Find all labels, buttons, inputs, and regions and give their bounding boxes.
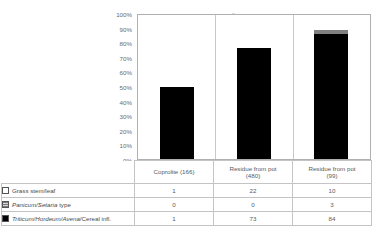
column-separator: [215, 15, 216, 159]
category-header-cell: Coprolite (166): [135, 161, 214, 184]
legend-label-part: Panicum/Setaria: [12, 201, 57, 208]
bar-segment: [160, 15, 194, 87]
y-axis-tick-label: 40%: [120, 98, 132, 105]
legend-swatch-icon: [2, 201, 9, 208]
legend-entry: Triticum/Hordeum/Avena/Cereal infl.: [2, 212, 135, 226]
bar-segment: [160, 87, 194, 159]
category-header-line: (99): [326, 172, 337, 179]
table-cell-value: 84: [293, 212, 372, 226]
table-row: Panicum/Setaria type003: [2, 198, 372, 212]
y-axis-tick-label: 10%: [120, 142, 132, 149]
chart-figure: 0%10%20%30%40%50%60%70%80%90%100% Coprol…: [0, 0, 380, 236]
table-corner-cell: [2, 161, 135, 184]
bar-column: [314, 15, 348, 159]
y-axis-tick-label: 80%: [120, 40, 132, 47]
bar-segment: [237, 15, 271, 48]
table-cell-value: 1: [135, 184, 214, 198]
legend-label-part: /Cereal infl.: [80, 215, 111, 222]
y-axis-tick-label: 60%: [120, 69, 132, 76]
category-header-line: Residue from pot: [229, 165, 276, 172]
table-header-row: Coprolite (166)Residue from pot(480)Resi…: [2, 161, 372, 184]
plot-frame: [137, 14, 371, 160]
table-cell-value: 0: [214, 198, 293, 212]
legend-entry: Grass stem/leaf: [2, 184, 135, 198]
y-axis-labels: 0%10%20%30%40%50%60%70%80%90%100%: [96, 8, 136, 162]
bar-column: [160, 15, 194, 159]
legend-label-part: type: [57, 201, 70, 208]
table-cell-value: 0: [135, 198, 214, 212]
bars-container: [138, 15, 370, 159]
legend-swatch-icon: [2, 187, 9, 194]
bar-segment: [314, 15, 348, 30]
legend-entry: Panicum/Setaria type: [2, 198, 135, 212]
y-axis-tick-label: 50%: [120, 84, 132, 91]
table-cell-value: 1: [135, 212, 214, 226]
legend-label-part: Grass stem/leaf: [12, 187, 55, 194]
table-row: Triticum/Hordeum/Avena/Cereal infl.17384: [2, 212, 372, 226]
y-axis-tick-label: 30%: [120, 113, 132, 120]
legend-swatch-icon: [2, 215, 9, 222]
category-header-line: Residue from pot: [308, 165, 355, 172]
table-cell-value: 73: [214, 212, 293, 226]
category-header-line: Coprolite (166): [154, 168, 195, 175]
bar-segment: [237, 48, 271, 159]
category-header-cell: Residue from pot(480): [214, 161, 293, 184]
column-separator: [293, 15, 294, 159]
table-row: Grass stem/leaf12210: [2, 184, 372, 198]
y-axis-tick-label: 20%: [120, 127, 132, 134]
y-axis-tick-label: 90%: [120, 25, 132, 32]
chart-plot-area: 0%10%20%30%40%50%60%70%80%90%100%: [0, 0, 380, 170]
y-axis-tick-label: 70%: [120, 54, 132, 61]
table-cell-value: 22: [214, 184, 293, 198]
category-header-cell: Residue from pot(99): [293, 161, 372, 184]
y-axis-tick-label: 100%: [116, 11, 132, 18]
table-cell-value: 10: [293, 184, 372, 198]
table-cell-value: 3: [293, 198, 372, 212]
legend-label-part: Triticum/Hordeum/Avena: [12, 215, 80, 222]
data-table: Coprolite (166)Residue from pot(480)Resi…: [1, 160, 372, 226]
category-header-line: (480): [246, 172, 260, 179]
bar-column: [237, 15, 271, 159]
bar-segment: [314, 34, 348, 159]
